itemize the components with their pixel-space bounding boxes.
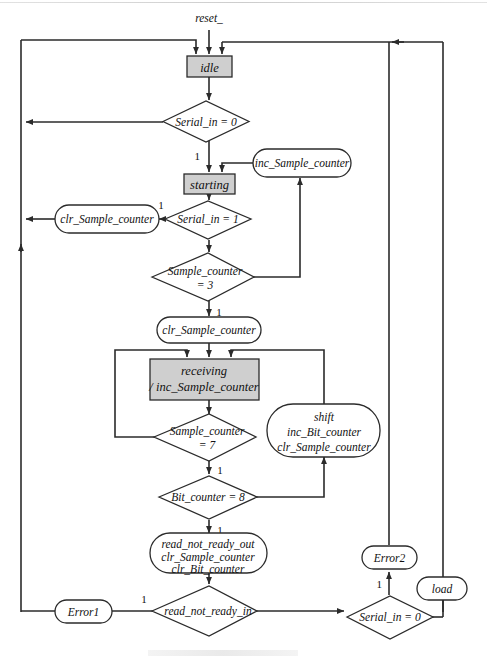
- state-receiving-line2: / inc_Sample_counter: [148, 380, 258, 394]
- output-error1-label: Error1: [67, 606, 100, 618]
- output-clr-sample-counter-mid-label: clr_Sample_counter: [162, 324, 256, 337]
- edge-bitcounter8-false-to-shift: [255, 457, 324, 497]
- decision-serial-in-0-bottom-label: Serial_in = 0: [359, 611, 421, 623]
- decision-sample-counter-3-line2: = 3: [197, 279, 214, 291]
- decision-serial-in-0-top[interactable]: Serial_in = 0: [163, 101, 249, 142]
- output-read-not-ready-block[interactable]: read_not_ready_out clr_Sample_counter cl…: [150, 533, 267, 575]
- output-shift-line2: inc_Bit_counter: [287, 426, 362, 438]
- branch-label-samplecounter3-true: 1: [216, 306, 222, 318]
- output-clr-sample-counter-left[interactable]: clr_Sample_counter: [55, 205, 159, 233]
- output-read-not-ready-line3: clr_Bit_counter: [172, 563, 245, 575]
- decision-bit-counter-8[interactable]: Bit_counter = 8: [159, 476, 257, 519]
- branch-label-readnotreadyin-true: 1: [141, 593, 147, 605]
- output-read-not-ready-line1: read_not_ready_out: [161, 538, 255, 551]
- output-shift-block[interactable]: shift inc_Bit_counter clr_Sample_counter: [267, 404, 380, 457]
- decision-sample-counter-7[interactable]: Sample_counter = 7: [154, 414, 256, 461]
- branch-label-serialin1-true: 1: [158, 199, 164, 211]
- output-load[interactable]: load: [417, 577, 467, 600]
- decision-serial-in-0-bottom[interactable]: Serial_in = 0: [347, 596, 433, 639]
- decision-serial-in-1-label: Serial_in = 1: [177, 213, 238, 225]
- decision-read-not-ready-in-label: read_not_ready_in: [164, 605, 252, 618]
- output-load-label: load: [432, 583, 453, 595]
- decision-sample-counter-3-line1: Sample_counter: [168, 265, 243, 278]
- state-starting[interactable]: starting: [184, 174, 235, 194]
- branch-label-serialin0bottom-true: 1: [377, 578, 383, 590]
- output-clr-sample-counter-left-label: clr_Sample_counter: [60, 213, 154, 226]
- decision-sample-counter-7-line2: = 7: [199, 439, 217, 451]
- state-receiving-line1: receiving: [181, 364, 227, 378]
- state-idle-label: idle: [200, 61, 219, 75]
- output-clr-sample-counter-mid[interactable]: clr_Sample_counter: [157, 317, 261, 343]
- flowchart-svg: idle reset_ Serial_in = 0 1 inc_Sample_c…: [0, 0, 487, 658]
- state-idle[interactable]: idle: [187, 56, 232, 77]
- output-error2[interactable]: Error2: [362, 546, 417, 569]
- state-receiving[interactable]: receiving / inc_Sample_counter: [148, 359, 259, 400]
- output-error2-label: Error2: [373, 552, 406, 564]
- decision-bit-counter-8-label: Bit_counter = 8: [171, 491, 245, 503]
- decision-serial-in-1[interactable]: Serial_in = 1: [165, 201, 251, 239]
- edge-incsample-to-starting: [222, 163, 253, 172]
- reset-signal-label: reset_: [195, 12, 223, 24]
- branch-label-serialin0-true: 1: [195, 150, 201, 162]
- decision-serial-in-0-top-label: Serial_in = 0: [175, 116, 237, 128]
- edge-samplecounter3-false-to-incsample: [253, 178, 300, 277]
- output-inc-sample-counter-top-label: inc_Sample_counter: [255, 157, 350, 170]
- output-error1[interactable]: Error1: [55, 600, 112, 623]
- asm-flowchart-canvas: idle reset_ Serial_in = 0 1 inc_Sample_c…: [0, 0, 487, 658]
- state-starting-label: starting: [190, 178, 229, 192]
- output-shift-line3: clr_Sample_counter: [277, 441, 371, 454]
- decision-read-not-ready-in[interactable]: read_not_ready_in: [152, 586, 257, 636]
- branch-label-samplecounter7-true: 1: [217, 464, 223, 476]
- decision-sample-counter-3[interactable]: Sample_counter = 3: [152, 253, 254, 301]
- output-shift-line1: shift: [314, 411, 335, 424]
- output-inc-sample-counter-top[interactable]: inc_Sample_counter: [253, 149, 351, 177]
- decision-sample-counter-7-line1: Sample_counter: [170, 425, 245, 438]
